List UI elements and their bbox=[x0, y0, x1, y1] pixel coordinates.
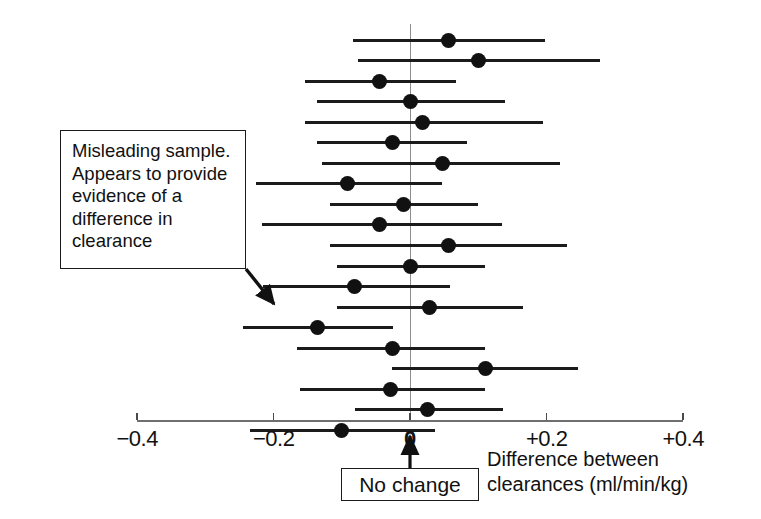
point-estimate-marker bbox=[385, 341, 400, 356]
annotation-line-4: difference in bbox=[72, 208, 235, 231]
point-estimate-marker bbox=[372, 74, 387, 89]
point-estimate-marker bbox=[340, 176, 355, 191]
x-axis-tick-label: −0.2 bbox=[253, 426, 294, 452]
forest-plot: −0.4−0.20+0.2+0.4 Misleading sample. App… bbox=[0, 0, 761, 519]
no-change-callout: No change bbox=[341, 468, 479, 501]
x-axis-tick bbox=[273, 413, 275, 420]
x-axis-tick bbox=[682, 413, 684, 420]
x-axis-tick-label: 0 bbox=[404, 426, 416, 452]
point-estimate-marker bbox=[372, 217, 387, 232]
annotation-line-3: evidence of a bbox=[72, 185, 235, 208]
x-axis-label-line-1: Difference between bbox=[487, 447, 688, 472]
point-estimate-marker bbox=[403, 94, 418, 109]
point-estimate-marker bbox=[347, 279, 362, 294]
point-estimate-marker bbox=[415, 115, 430, 130]
point-estimate-marker bbox=[478, 361, 493, 376]
point-estimate-marker bbox=[435, 156, 450, 171]
x-axis-line bbox=[137, 420, 683, 422]
x-axis-tick bbox=[136, 413, 138, 420]
point-estimate-marker bbox=[310, 320, 325, 335]
point-estimate-marker bbox=[441, 33, 456, 48]
point-estimate-marker bbox=[471, 53, 486, 68]
point-estimate-marker bbox=[403, 259, 418, 274]
point-estimate-marker bbox=[385, 135, 400, 150]
annotation-line-1: Misleading sample. bbox=[72, 140, 235, 163]
point-estimate-marker bbox=[420, 402, 435, 417]
point-estimate-marker bbox=[383, 382, 398, 397]
point-estimate-marker bbox=[422, 300, 437, 315]
annotation-line-5: clearance bbox=[72, 230, 235, 253]
x-axis-tick bbox=[409, 413, 411, 420]
annotation-callout: Misleading sample. Appears to provide ev… bbox=[60, 130, 246, 269]
x-axis-label: Difference between clearances (ml/min/kg… bbox=[487, 447, 688, 497]
annotation-line-2: Appears to provide bbox=[72, 163, 235, 186]
x-axis-tick bbox=[546, 413, 548, 420]
point-estimate-marker bbox=[334, 423, 349, 438]
zero-reference-line bbox=[410, 24, 411, 420]
point-estimate-marker bbox=[441, 238, 456, 253]
x-axis-label-line-2: clearances (ml/min/kg) bbox=[487, 472, 688, 497]
x-axis-tick-label: −0.4 bbox=[117, 426, 158, 452]
point-estimate-marker bbox=[396, 197, 411, 212]
no-change-label: No change bbox=[359, 473, 461, 497]
